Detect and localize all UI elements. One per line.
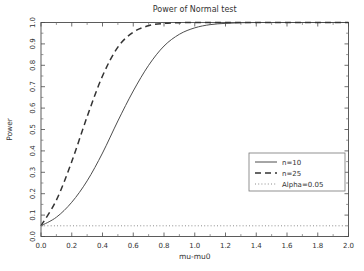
x-tick-label: 1.0 <box>189 242 200 250</box>
x-tick-label: 1.8 <box>312 242 323 250</box>
y-tick-label: 0.4 <box>29 145 37 157</box>
x-tick-label: 0.0 <box>35 242 46 250</box>
x-tick-label: 1.6 <box>281 242 293 250</box>
y-axis-title: Power <box>5 117 14 141</box>
legend-label-1: n=25 <box>282 170 301 178</box>
y-tick-label: 0.9 <box>29 38 37 49</box>
y-tick-label: 0.2 <box>29 188 37 199</box>
chart-canvas: Power of Normal test0.00.20.40.60.81.01.… <box>0 0 364 271</box>
chart-title: Power of Normal test <box>153 5 237 14</box>
x-tick-label: 2.0 <box>343 242 354 250</box>
y-tick-label: 0.6 <box>29 102 37 114</box>
legend-label-2: Alpha=0.05 <box>282 181 323 189</box>
series-line-n25 <box>41 22 349 225</box>
plot-frame <box>41 23 349 237</box>
x-tick-label: 1.4 <box>251 242 263 250</box>
power-chart: Power of Normal test0.00.20.40.60.81.01.… <box>0 0 364 271</box>
y-tick-label: 0.5 <box>29 124 37 135</box>
y-tick-label: 0.1 <box>29 210 37 221</box>
x-axis-title: mu-mu0 <box>179 252 211 261</box>
x-tick-label: 1.2 <box>220 242 231 250</box>
x-tick-label: 0.6 <box>128 242 140 250</box>
x-tick-label: 0.4 <box>97 242 109 250</box>
y-tick-label: 0.3 <box>29 167 37 178</box>
series-line-n10 <box>41 22 349 225</box>
x-tick-label: 0.2 <box>66 242 77 250</box>
y-tick-label: 0.0 <box>29 231 37 242</box>
y-tick-label: 1.0 <box>29 17 37 28</box>
legend-label-0: n=10 <box>282 159 301 167</box>
y-tick-label: 0.7 <box>29 81 37 92</box>
x-tick-label: 0.8 <box>158 242 169 250</box>
y-tick-label: 0.8 <box>29 60 37 71</box>
